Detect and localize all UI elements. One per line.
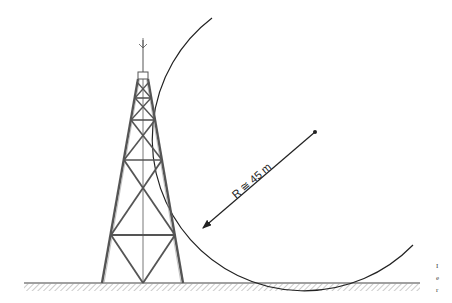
edge-fragment-2: e (436, 274, 439, 282)
radius-indicator: R ≅ 45 m (203, 130, 317, 228)
edge-fragment-3: r (436, 286, 438, 294)
diagram-canvas: R ≅ 45 m (0, 0, 452, 303)
tower-cap (138, 72, 148, 79)
rod-tip-icon (139, 38, 147, 48)
ground (24, 283, 420, 291)
rolling-sphere-arc (152, 18, 413, 291)
radius-label: R ≅ 45 m (229, 160, 273, 200)
lattice-tower (102, 38, 183, 283)
sphere-center-dot (313, 130, 317, 134)
edge-fragment-1: I (436, 262, 438, 270)
